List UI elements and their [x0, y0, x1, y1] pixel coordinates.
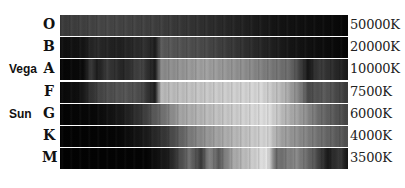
- spectrum-band: [60, 104, 348, 125]
- spectrum-row-f: F 7500K: [0, 82, 405, 103]
- spectral-class-label: F: [42, 83, 56, 99]
- spectral-class-label: B: [42, 38, 56, 54]
- temperature-label: 6000K: [350, 106, 392, 121]
- spectrum-row-g: Sun G 6000K: [0, 104, 405, 125]
- temperature-label: 20000K: [350, 39, 400, 54]
- spectrum-band: [60, 15, 348, 36]
- spectral-class-label: A: [42, 60, 56, 76]
- spectrum-row-m: M 3500K: [0, 148, 405, 169]
- spectrum-band: [60, 126, 348, 147]
- temperature-label: 3500K: [350, 150, 392, 165]
- temperature-label: 10000K: [350, 61, 400, 76]
- spectral-class-label: K: [42, 127, 56, 143]
- spectral-class-label: G: [42, 105, 56, 121]
- spectral-class-label: O: [42, 16, 56, 32]
- temperature-label: 7500K: [350, 84, 392, 99]
- star-name: Sun: [9, 107, 32, 121]
- spectrum-row-o: O 50000K: [0, 15, 405, 36]
- temperature-label: 50000K: [350, 17, 400, 32]
- spectrum-band: [60, 82, 348, 103]
- spectrum-row-b: B 20000K: [0, 37, 405, 58]
- spectrum-row-k: K 4000K: [0, 126, 405, 147]
- temperature-label: 4000K: [350, 128, 392, 143]
- spectral-class-label: M: [42, 149, 56, 165]
- spectrum-band: [60, 37, 348, 58]
- spectrum-row-a: Vega A 10000K: [0, 59, 405, 80]
- spectrum-band: [60, 59, 348, 80]
- star-name: Vega: [9, 62, 37, 76]
- spectrum-band: [60, 148, 348, 169]
